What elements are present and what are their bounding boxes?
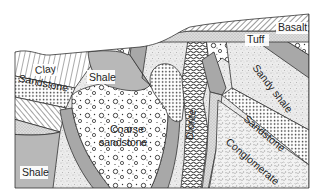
label-shale-upper: Shale <box>89 71 116 83</box>
label-coarse-line1: Coarse <box>110 123 144 135</box>
label-basalt: Basalt <box>278 21 307 33</box>
label-coarse-line2: sandstone <box>99 136 148 148</box>
shale-lower-layer <box>10 132 60 196</box>
label-shale-lower: Shale <box>22 166 49 178</box>
label-clay: Clay <box>34 62 57 76</box>
label-tuff: Tuff <box>247 33 265 45</box>
geological-cross-section: Basalt Tuff Clay Sandstone Shale Coarse … <box>0 0 327 196</box>
